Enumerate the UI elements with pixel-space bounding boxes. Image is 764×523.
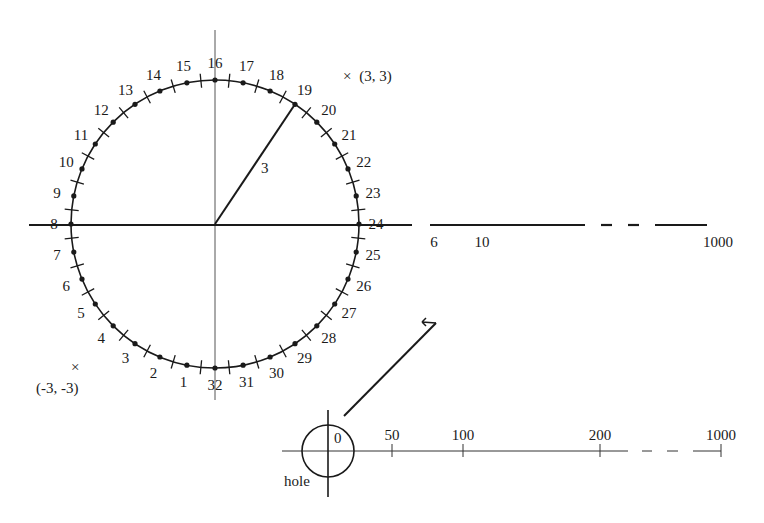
dial-point-label: 16 bbox=[208, 55, 224, 71]
dial-point-label: 4 bbox=[97, 330, 105, 346]
dial-tick bbox=[98, 311, 109, 320]
connector-line bbox=[344, 323, 436, 416]
dial-point bbox=[268, 354, 273, 359]
dial-tick bbox=[82, 153, 94, 160]
upper-axis-label: 10 bbox=[475, 234, 490, 250]
marker-lower-label: (-3, -3) bbox=[36, 380, 78, 397]
zero-label: 0 bbox=[334, 430, 342, 446]
dial-point-label: 17 bbox=[239, 58, 255, 74]
dial-point-label: 26 bbox=[356, 278, 372, 294]
dial-point bbox=[157, 354, 162, 359]
dial-point bbox=[79, 277, 84, 282]
dial-point-label: 25 bbox=[365, 247, 380, 263]
dial-tick bbox=[321, 128, 332, 137]
dial-point bbox=[184, 80, 189, 85]
dial-point-label: 5 bbox=[77, 305, 85, 321]
dial-point bbox=[314, 120, 319, 125]
dial-point bbox=[332, 141, 337, 146]
upper-axis-label: 6 bbox=[430, 234, 438, 250]
radius-label: 3 bbox=[261, 160, 269, 176]
lower-scale-label: 1000 bbox=[706, 427, 736, 443]
dial-point bbox=[71, 193, 76, 198]
dial-point-label: 21 bbox=[341, 127, 356, 143]
dial-tick bbox=[302, 107, 311, 118]
dial-point bbox=[345, 166, 350, 171]
dial-point-label: 10 bbox=[59, 154, 74, 170]
marker-upper: × (3, 3) bbox=[343, 68, 392, 85]
dial-tick bbox=[65, 237, 79, 238]
hole-label: hole bbox=[284, 473, 310, 489]
dial-point-label: 15 bbox=[176, 58, 191, 74]
dial-point-label: 32 bbox=[208, 377, 223, 393]
dial-tick bbox=[336, 153, 348, 160]
dial-point bbox=[241, 80, 246, 85]
dial-point-label: 11 bbox=[74, 127, 88, 143]
dial-point bbox=[93, 301, 98, 306]
dial-point-label: 2 bbox=[150, 365, 158, 381]
dial-tick bbox=[228, 74, 229, 88]
dial-point-label: 1 bbox=[180, 374, 188, 390]
radius-line bbox=[215, 104, 295, 224]
dial-point-label: 23 bbox=[365, 185, 380, 201]
dial-point-label: 7 bbox=[53, 247, 61, 263]
dial-point-label: 9 bbox=[53, 185, 61, 201]
dial-point-label: 31 bbox=[239, 374, 254, 390]
dial-point-label: 3 bbox=[122, 350, 130, 366]
upper-axis-labels: 6101000 bbox=[430, 234, 733, 250]
dial-point bbox=[212, 77, 217, 82]
dial-point-label: 18 bbox=[269, 67, 284, 83]
dial-point bbox=[93, 141, 98, 146]
dial-tick bbox=[228, 360, 229, 374]
dial-tick bbox=[98, 128, 109, 137]
cross-icon: × bbox=[343, 68, 351, 84]
dial-tick bbox=[351, 209, 365, 210]
hashing-circle-diagram: 1234567891011121314151617181920212223242… bbox=[0, 0, 764, 523]
dial-point bbox=[345, 277, 350, 282]
dial-point bbox=[111, 120, 116, 125]
dial-point bbox=[332, 301, 337, 306]
dial-point bbox=[157, 88, 162, 93]
dial-point bbox=[132, 341, 137, 346]
marker-lower-cross: × bbox=[71, 359, 79, 375]
dial-point bbox=[241, 363, 246, 368]
lower-scale: 0 hole 501002001000 bbox=[282, 410, 736, 497]
lower-scale-label: 200 bbox=[589, 427, 612, 443]
dial-point-label: 28 bbox=[321, 330, 336, 346]
dial-point bbox=[71, 250, 76, 255]
dial-point-label: 13 bbox=[118, 82, 133, 98]
dial-tick bbox=[280, 91, 287, 103]
dial-point bbox=[354, 250, 359, 255]
dial-tick bbox=[119, 330, 128, 341]
dial-tick bbox=[321, 311, 332, 320]
dial-tick bbox=[82, 289, 94, 296]
dial-tick bbox=[200, 74, 201, 88]
dial-point bbox=[132, 102, 137, 107]
dial-point bbox=[184, 363, 189, 368]
dial-point bbox=[292, 341, 297, 346]
lower-scale-label: 50 bbox=[385, 427, 400, 443]
dial-tick bbox=[119, 107, 128, 118]
dial-tick bbox=[302, 330, 311, 341]
dial-point bbox=[314, 323, 319, 328]
dial-point bbox=[212, 365, 217, 370]
dial-point bbox=[79, 166, 84, 171]
lower-scale-label: 100 bbox=[452, 427, 475, 443]
dial-point-label: 6 bbox=[63, 278, 71, 294]
dial-point-label: 12 bbox=[94, 102, 109, 118]
dial-tick bbox=[65, 209, 79, 210]
lower-scale-ticks: 501002001000 bbox=[385, 427, 737, 457]
marker-upper-label: (3, 3) bbox=[359, 68, 392, 85]
dial-point-label: 20 bbox=[321, 102, 336, 118]
dial-point-label: 29 bbox=[297, 350, 312, 366]
dial-tick bbox=[144, 91, 151, 103]
dial-tick bbox=[336, 289, 348, 296]
dial-tick bbox=[200, 360, 201, 374]
dial-point-label: 27 bbox=[341, 305, 357, 321]
dial-point-label: 19 bbox=[297, 82, 312, 98]
dial-tick bbox=[144, 345, 151, 357]
dial-point-label: 14 bbox=[146, 67, 162, 83]
upper-axis-label: 1000 bbox=[703, 234, 733, 250]
dial-point bbox=[268, 88, 273, 93]
dial-point bbox=[354, 193, 359, 198]
dial-point-label: 30 bbox=[269, 365, 284, 381]
